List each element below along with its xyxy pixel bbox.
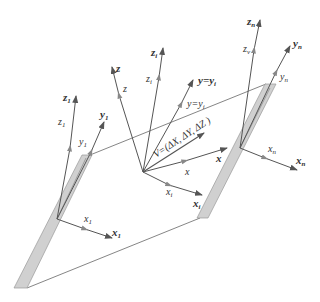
label-y-eq-yi-light: y=yi: [186, 98, 205, 111]
label-x-bold: x: [215, 152, 222, 164]
label-x1-light: x1: [83, 213, 92, 226]
label-z-bold: z: [115, 62, 121, 74]
left-plate: [14, 155, 92, 288]
label-zv-light: zv: [242, 43, 251, 56]
label-z1-bold: z1: [62, 91, 71, 105]
label-vector-v: V=(ΔX, ΔY, ΔZ ): [151, 114, 213, 160]
center-frame-labels: z z zi zi y=yi y=yi x x xi xi V=(ΔX, ΔY,…: [115, 46, 222, 211]
frame-n-labels: zn zv yn yn xn xn: [242, 15, 306, 168]
label-zi-light: zi: [145, 73, 152, 86]
label-zi-bold: zi: [150, 46, 157, 60]
label-xi-bold: xi: [192, 197, 201, 211]
right-plate: [197, 84, 276, 218]
label-xn-bold: xn: [295, 154, 306, 168]
label-x1-bold: x1: [111, 226, 121, 240]
label-y1-light: y1: [78, 136, 87, 149]
label-yn-light: yn: [279, 71, 288, 84]
label-z-light: z: [122, 83, 127, 94]
label-xi-light: xi: [165, 186, 172, 199]
label-y-eq-yi-bold: y=yi: [196, 74, 216, 88]
label-zn-bold: zn: [246, 15, 255, 29]
label-xn-light: xn: [267, 143, 276, 156]
coordinate-frames-diagram: z1 z1 y1 y1 x1 x1 z z zi zi y=yi y=yi x …: [0, 0, 320, 302]
label-x-light: x: [184, 166, 190, 177]
label-y1-bold: y1: [98, 108, 108, 122]
label-z1-light: z1: [57, 116, 65, 129]
label-yn-bold: yn: [291, 37, 302, 51]
